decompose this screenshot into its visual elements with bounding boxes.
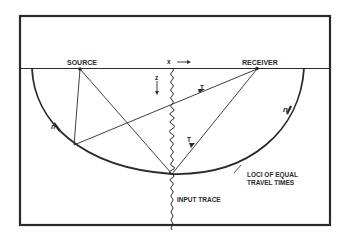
ray-t-upper-label: T	[200, 84, 204, 91]
ray-left-reflector-to-receiver	[74, 69, 257, 145]
receiver-label: RECEIVER	[242, 59, 278, 66]
ray-bottom-to-receiver	[172, 69, 257, 174]
input-trace-wiggle	[170, 68, 175, 230]
migration-diagram: SOURCE RECEIVER x z T T n n LOCI OF EQUA…	[0, 0, 348, 238]
ray-source-to-bottom	[80, 69, 172, 174]
source-marker	[78, 67, 82, 71]
loci-label-line1: LOCI OF EQUAL	[247, 171, 298, 179]
loci-label-line2: TRAVEL TIMES	[247, 179, 295, 186]
z-axis-label: z	[155, 74, 159, 81]
frame-border	[20, 16, 330, 225]
input-trace-label: INPUT TRACE	[177, 196, 221, 203]
source-label: SOURCE	[67, 59, 97, 66]
ray-t-lower-label: T	[187, 136, 191, 143]
z-axis-arrow-head-icon	[155, 91, 159, 95]
x-axis-arrow-head-icon	[187, 60, 191, 64]
receiver-marker	[255, 67, 259, 71]
equal-travel-time-ellipse	[32, 69, 304, 175]
x-axis-label: x	[167, 58, 171, 65]
normal-right-label: n	[283, 105, 288, 114]
loci-leader-line	[234, 165, 241, 173]
ray-source-to-left-reflector	[74, 69, 80, 145]
normal-left-label: n	[51, 123, 55, 130]
